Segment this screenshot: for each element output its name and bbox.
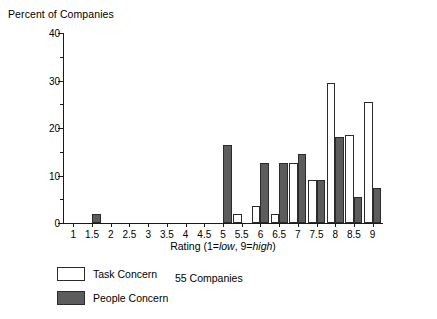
x-tick — [279, 223, 280, 227]
x-tick-label: 5 — [220, 229, 226, 240]
x-tick-label: 8.5 — [347, 229, 361, 240]
x-tick — [111, 223, 112, 227]
y-tick-minor — [60, 104, 64, 105]
x-tick — [92, 223, 93, 227]
x-tick-label: 4 — [183, 229, 189, 240]
y-tick-label: 10 — [49, 170, 60, 181]
x-tick — [129, 223, 130, 227]
legend-label: Task Concern — [93, 268, 157, 280]
y-axis-title: Percent of Companies — [8, 8, 114, 20]
x-tick — [167, 223, 168, 227]
x-tick — [298, 223, 299, 227]
legend-item: Task Concern — [57, 264, 168, 283]
bar-task-concern-7 — [289, 163, 298, 223]
legend-label: People Concern — [93, 292, 168, 304]
bar-task-concern-5.5 — [233, 214, 242, 223]
x-tick-label: 4.5 — [197, 229, 211, 240]
x-axis-title-a: Rating (1= — [170, 240, 219, 252]
bar-people-concern-7.5 — [317, 180, 326, 223]
bar-task-concern-8.5 — [345, 135, 354, 223]
y-tick-label: 20 — [49, 123, 60, 134]
plot-area: 01020304011.522.533.544.555.566.577.588.… — [64, 33, 382, 223]
bar-people-concern-8.5 — [354, 197, 363, 223]
x-tick-label: 2.5 — [123, 229, 137, 240]
bar-task-concern-7.5 — [308, 180, 317, 223]
x-tick — [354, 223, 355, 227]
y-tick-label: 30 — [49, 75, 60, 86]
chart-legend: Task ConcernPeople Concern — [57, 264, 168, 312]
x-tick — [335, 223, 336, 227]
x-tick-label: 1 — [71, 229, 77, 240]
x-tick-label: 2 — [108, 229, 114, 240]
x-axis-title-high: high — [252, 240, 272, 252]
y-tick-minor — [60, 199, 64, 200]
x-axis-title-c: ) — [272, 240, 276, 252]
bar-people-concern-7 — [298, 154, 307, 223]
x-axis-title-b: , 9= — [235, 240, 253, 252]
bar-people-concern-1.5 — [92, 214, 101, 223]
legend-swatch-people — [57, 291, 85, 305]
x-tick — [148, 223, 149, 227]
x-tick-label: 7 — [295, 229, 301, 240]
y-tick-label: 0 — [54, 218, 60, 229]
x-tick — [373, 223, 374, 227]
bar-people-concern-6.5 — [279, 163, 288, 223]
x-tick-label: 3.5 — [160, 229, 174, 240]
x-tick-label: 9 — [370, 229, 376, 240]
x-tick-label: 6 — [258, 229, 264, 240]
x-axis-title: Rating (1=low, 9=high) — [64, 240, 382, 252]
x-tick — [73, 223, 74, 227]
legend-item: People Concern — [57, 288, 168, 307]
x-tick-label: 6.5 — [272, 229, 286, 240]
x-tick — [186, 223, 187, 227]
x-tick — [317, 223, 318, 227]
bar-people-concern-8 — [335, 137, 344, 223]
chart-figure: Percent of Companies 01020304011.522.533… — [0, 0, 437, 319]
bar-people-concern-6 — [260, 163, 269, 223]
x-tick — [260, 223, 261, 227]
x-tick-label: 8 — [332, 229, 338, 240]
x-tick-label: 7.5 — [310, 229, 324, 240]
x-axis-title-low: low — [219, 240, 235, 252]
x-tick-label: 1.5 — [85, 229, 99, 240]
bar-people-concern-5 — [223, 145, 232, 223]
y-tick-label: 40 — [49, 28, 60, 39]
bar-task-concern-9 — [364, 102, 373, 223]
bar-task-concern-8 — [327, 83, 336, 223]
bar-people-concern-9 — [373, 188, 382, 223]
x-tick-label: 3 — [145, 229, 151, 240]
sample-size-note: 55 Companies — [175, 272, 243, 284]
x-tick-label: 5.5 — [235, 229, 249, 240]
bar-task-concern-6 — [252, 206, 261, 223]
x-tick — [204, 223, 205, 227]
x-tick — [242, 223, 243, 227]
y-tick-minor — [60, 152, 64, 153]
legend-swatch-task — [57, 267, 85, 281]
x-tick — [223, 223, 224, 227]
y-tick-minor — [60, 57, 64, 58]
bar-task-concern-6.5 — [271, 214, 280, 223]
